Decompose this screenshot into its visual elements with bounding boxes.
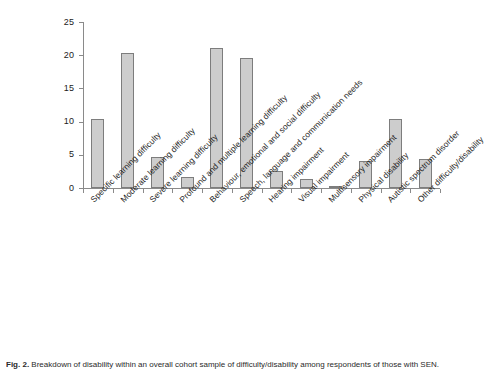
y-tick-label-text: 15 [52, 84, 74, 93]
y-tick-label: 10 [52, 117, 74, 126]
figure-caption-label: Fig. 2. [6, 360, 29, 369]
y-tick-label: 20 [52, 51, 74, 60]
y-tick-label: 15 [52, 84, 74, 93]
x-axis-category-labels: Specific learning difficultyModerate lea… [0, 188, 452, 363]
figure-caption-text: Breakdown of disability within an overal… [31, 360, 439, 369]
bar [91, 119, 104, 188]
figure-caption: Fig. 2. Breakdown of disability within a… [6, 360, 452, 370]
y-tick-label: 5 [52, 150, 74, 159]
y-tick-label-text: 10 [52, 117, 74, 126]
y-tick-label-text: 20 [52, 51, 74, 60]
y-tick-label-text: 25 [52, 18, 74, 27]
y-tick-label-text: 5 [52, 150, 74, 159]
y-tick-label: 25 [52, 18, 74, 27]
